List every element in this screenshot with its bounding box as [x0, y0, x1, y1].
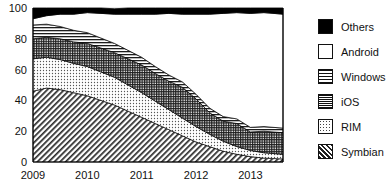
y-tick-label: 40: [15, 94, 27, 106]
y-tick-label: 0: [21, 156, 27, 168]
legend-label-ios: iOS: [341, 96, 359, 108]
legend-item-android[interactable]: Android: [318, 39, 387, 64]
x-tick-label: 2011: [130, 169, 154, 181]
legend-swatch-android-icon: [318, 44, 333, 59]
legend-label-windows: Windows: [341, 71, 386, 83]
x-tick-label: 2009: [21, 169, 45, 181]
y-tick-label: 60: [15, 64, 27, 76]
legend-item-rim[interactable]: RIM: [318, 114, 387, 139]
legend-swatch-symbian-icon: [318, 144, 333, 159]
stacked-area-chart: 020406080100 20092010201120122013: [0, 0, 318, 195]
legend-label-android: Android: [341, 46, 379, 58]
legend-swatch-rim-icon: [318, 119, 333, 134]
chart-legend: Others Android Windows iOS RIM Symbian: [318, 14, 387, 164]
legend-item-symbian[interactable]: Symbian: [318, 139, 387, 164]
y-axis-tick-labels: 020406080100: [9, 2, 27, 168]
legend-item-ios[interactable]: iOS: [318, 89, 387, 114]
x-tick-label: 2010: [75, 169, 99, 181]
y-tick-label: 100: [9, 2, 27, 14]
area-series-group: [33, 8, 283, 162]
y-tick-label: 20: [15, 125, 27, 137]
legend-item-others[interactable]: Others: [318, 14, 387, 39]
x-tick-label: 2013: [238, 169, 262, 181]
legend-swatch-ios-icon: [318, 94, 333, 109]
legend-label-symbian: Symbian: [341, 146, 384, 158]
chart-container: 020406080100 20092010201120122013 Others…: [0, 0, 387, 195]
legend-item-windows[interactable]: Windows: [318, 64, 387, 89]
x-tick-label: 2012: [184, 169, 208, 181]
x-axis-tick-labels: 20092010201120122013: [21, 169, 263, 181]
legend-label-rim: RIM: [341, 121, 361, 133]
legend-swatch-others-icon: [318, 19, 333, 34]
legend-label-others: Others: [341, 21, 374, 33]
y-tick-label: 80: [15, 33, 27, 45]
legend-swatch-windows-icon: [318, 69, 333, 84]
